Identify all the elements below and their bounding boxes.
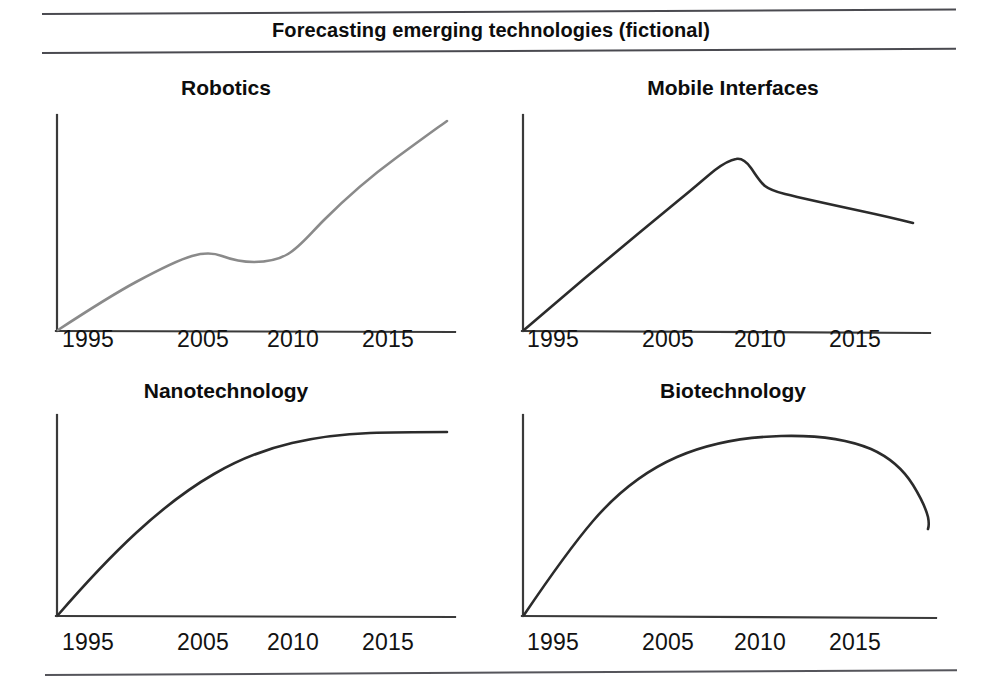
plot-area-robotics [14, 70, 474, 360]
x-tick-label: 2015 [362, 326, 414, 353]
footer-rule [45, 669, 957, 676]
x-tick-label: 2015 [362, 629, 414, 656]
x-tick-label: 2010 [734, 629, 786, 656]
plot-area-mobile-interfaces [489, 70, 949, 360]
series-line-biotechnology [524, 436, 929, 615]
axes-biotechnology [522, 415, 936, 618]
x-tick-labels-robotics: 1995 2005 2010 2015 [14, 326, 474, 356]
x-tick-label: 1995 [62, 629, 114, 656]
x-tick-label: 2005 [177, 326, 229, 353]
figure-title: Forecasting emerging technologies (ficti… [0, 19, 982, 42]
chart-panel-robotics: Robotics 1995 2005 2010 2015 [14, 70, 474, 360]
axes-mobile-interfaces [522, 115, 930, 333]
header-rule-top [42, 9, 956, 15]
x-tick-labels-biotechnology: 1995 2005 2010 2015 [489, 629, 949, 659]
x-tick-label: 2010 [734, 326, 786, 353]
x-tick-labels-mobile-interfaces: 1995 2005 2010 2015 [489, 326, 949, 356]
x-tick-label: 2015 [829, 326, 881, 353]
figure-page: Forecasting emerging technologies (ficti… [0, 0, 982, 695]
x-tick-label: 1995 [527, 629, 579, 656]
x-tick-label: 2010 [267, 326, 319, 353]
series-line-mobile-interfaces [524, 159, 913, 330]
axes-nanotechnology [56, 415, 455, 617]
chart-panel-mobile-interfaces: Mobile Interfaces 1995 2005 2010 2015 [489, 70, 949, 360]
x-tick-label: 2005 [642, 629, 694, 656]
x-tick-label: 2005 [177, 629, 229, 656]
header-rule-bottom [42, 48, 956, 54]
x-tick-label: 2010 [267, 629, 319, 656]
chart-panel-nanotechnology: Nanotechnology 1995 2005 2010 2015 [14, 373, 474, 663]
plot-area-biotechnology [489, 373, 949, 663]
x-tick-label: 1995 [527, 326, 579, 353]
x-tick-label: 2005 [642, 326, 694, 353]
axes-robotics [56, 115, 455, 332]
x-tick-label: 2015 [829, 629, 881, 656]
series-line-robotics [58, 121, 447, 330]
plot-area-nanotechnology [14, 373, 474, 663]
series-line-nanotechnology [58, 432, 447, 615]
x-tick-label: 1995 [62, 326, 114, 353]
chart-panel-biotechnology: Biotechnology 1995 2005 2010 2015 [489, 373, 949, 663]
x-tick-labels-nanotechnology: 1995 2005 2010 2015 [14, 629, 474, 659]
